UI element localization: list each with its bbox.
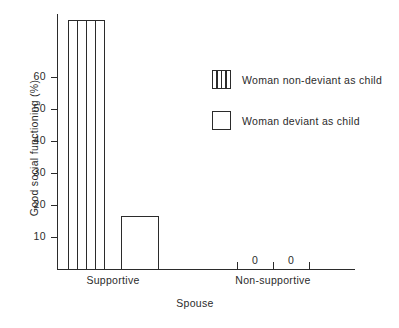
legend-swatch-striped-icon	[212, 70, 231, 89]
x-tick-nonsupportive-right	[309, 262, 310, 270]
bar-stripe	[77, 21, 78, 269]
y-tick-20	[51, 205, 58, 206]
y-axis-title: Good social functioning (%)	[28, 48, 40, 248]
legend-stripe	[216, 71, 217, 88]
legend-label: Woman non-deviant as child	[242, 74, 382, 86]
legend-swatch-empty-icon	[212, 111, 231, 130]
y-tick-60	[51, 77, 58, 78]
legend-stripe	[225, 71, 226, 88]
y-tick-40	[51, 141, 58, 142]
x-tick-nonsupportive-left	[237, 262, 238, 270]
plot-area: 60 50 40 30 20 10 0 0 Supportive Non-sup…	[0, 0, 399, 328]
bar-supportive-deviant	[121, 216, 159, 270]
bar-stripe	[86, 21, 87, 269]
bar-supportive-non-deviant	[68, 20, 105, 270]
category-label-supportive: Supportive	[86, 274, 139, 286]
legend-stripe	[221, 71, 222, 88]
legend-label: Woman deviant as child	[242, 115, 360, 127]
y-tick-50	[51, 109, 58, 110]
bar-stripe	[95, 21, 96, 269]
y-tick-10	[51, 237, 58, 238]
y-tick-30	[51, 173, 58, 174]
legend-entry-non-deviant: Woman non-deviant as child	[212, 70, 382, 89]
value-label-nonsupportive-non-deviant: 0	[252, 254, 258, 266]
x-axis-title: Spouse	[176, 297, 213, 309]
bar-chart-figure: 60 50 40 30 20 10 0 0 Supportive Non-sup…	[0, 0, 399, 328]
value-label-nonsupportive-deviant: 0	[288, 254, 294, 266]
x-tick-nonsupportive-mid	[273, 262, 274, 270]
category-label-non-supportive: Non-supportive	[235, 274, 310, 286]
legend-entry-deviant: Woman deviant as child	[212, 111, 360, 130]
